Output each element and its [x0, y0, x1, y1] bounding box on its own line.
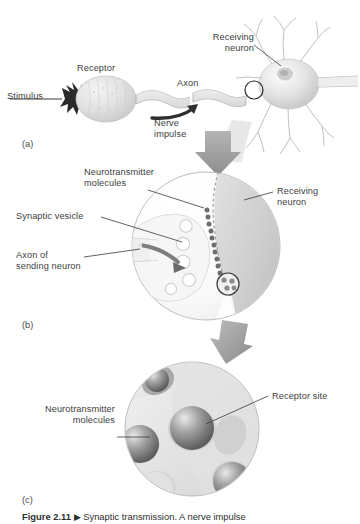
label-stimulus: Stimulus: [7, 91, 43, 102]
label-receptor-site: Receptor site: [272, 391, 327, 402]
panel-c-zoom-marker: [217, 273, 239, 295]
panel-b-artwork: [84, 172, 290, 322]
connector-arrow-b-to-c: [210, 320, 253, 364]
leader-axon-sending-b: [84, 249, 140, 257]
label-synaptic-vesicle: Synaptic vesicle: [16, 211, 83, 222]
label-axon: Axon: [177, 78, 198, 89]
panel-letter-b: (b): [22, 320, 33, 330]
label-receptor: Receptor: [77, 63, 115, 74]
label-nerve-impulse: Nerve impulse: [154, 118, 186, 139]
leader-receiving-neuron-a: [254, 45, 281, 66]
receptor-body: [76, 76, 136, 122]
label-neurotransmitter-molecules-b: Neurotransmitter molecules: [84, 167, 154, 188]
neuron-nucleolus: [280, 70, 288, 76]
label-receiving-neuron-a: Receiving neuron: [162, 32, 254, 53]
receiving-neuron-soma: [259, 59, 319, 109]
caption-marker-icon: ▶: [74, 511, 81, 522]
label-receiving-neuron-b: Receiving neuron: [277, 186, 318, 207]
label-neurotransmitter-molecules-c: Neurotransmitter molecules: [17, 404, 115, 425]
panel-letter-a: (a): [22, 139, 33, 149]
panel-letter-c: (c): [22, 495, 33, 505]
caption-text: Synaptic transmission. A nerve impulse: [83, 511, 246, 522]
receiving-neuron-axon: [318, 76, 358, 87]
label-axon-of-sending-neuron: Axon of sending neuron: [16, 250, 81, 271]
figure-caption: Figure 2.11 ▶ Synaptic transmission. A n…: [22, 511, 352, 524]
caption-label: Figure 2.11: [22, 511, 71, 522]
panel-c-artwork: [117, 361, 268, 506]
